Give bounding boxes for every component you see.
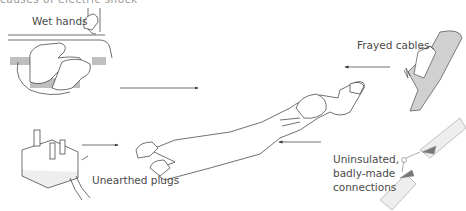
label-line-3: connections	[333, 180, 399, 194]
label-line-1: Uninsulated,	[333, 152, 399, 166]
label-unearthed-plugs: Unearthed plugs	[92, 173, 179, 187]
collapsed-person-illustration	[136, 82, 364, 180]
label-frayed-cables: Frayed cables	[357, 38, 429, 52]
unearthed-plug-illustration	[22, 130, 90, 200]
label-wet-hands: Wet hands	[32, 14, 88, 28]
label-line-2: badly-made	[333, 166, 399, 180]
label-uninsulated-connections: Uninsulated, badly-made connections	[333, 152, 399, 194]
